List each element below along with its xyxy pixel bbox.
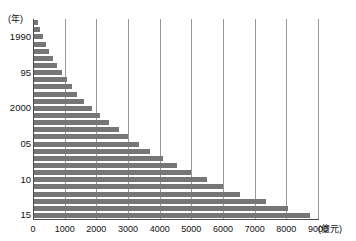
bar-row	[33, 184, 318, 189]
bar-row	[33, 92, 318, 97]
bar	[33, 92, 77, 97]
bar-row	[33, 156, 318, 161]
bar-row	[33, 70, 318, 75]
bar	[33, 184, 223, 189]
bar	[33, 213, 310, 218]
bar	[33, 99, 84, 104]
bar	[33, 149, 150, 154]
bar-row	[33, 113, 318, 118]
x-axis-unit-label: (億元)	[318, 224, 342, 235]
y-axis-tick-labels: 1990952000051015	[0, 0, 31, 241]
bar	[33, 120, 109, 125]
bar-row	[33, 49, 318, 54]
x-axis-tick-label: 6000	[213, 224, 233, 235]
x-axis-tick-label: 0	[30, 224, 35, 235]
bar	[33, 77, 67, 82]
x-axis-tick-label: 1000	[55, 224, 75, 235]
bar	[33, 56, 53, 61]
bar-row	[33, 106, 318, 111]
gridline	[318, 19, 319, 219]
bar-row	[33, 84, 318, 89]
bar-row	[33, 134, 318, 139]
bar	[33, 206, 288, 211]
bar	[33, 106, 92, 111]
y-axis-tick-label: 10	[20, 175, 31, 185]
bar	[33, 156, 163, 161]
x-axis-tick-label: 3000	[118, 224, 138, 235]
bar	[33, 142, 139, 147]
y-axis-line	[33, 19, 34, 220]
bar	[33, 70, 62, 75]
x-axis-tick-label: 2000	[86, 224, 106, 235]
y-axis-tick-label: 1990	[10, 32, 31, 42]
bar	[33, 199, 266, 204]
bar-row	[33, 63, 318, 68]
y-axis-tick-label: 05	[20, 139, 31, 149]
bar-chart: (年) 1990952000051015 0100020003000400050…	[0, 0, 356, 241]
chart-title-fragment	[6, 0, 206, 9]
bar-row	[33, 206, 318, 211]
bar-row	[33, 163, 318, 168]
bar	[33, 177, 207, 182]
y-axis-tick-label: 2000	[10, 103, 31, 113]
bar-row	[33, 27, 318, 32]
bar-row	[33, 199, 318, 204]
bar-row	[33, 149, 318, 154]
bar-row	[33, 192, 318, 197]
x-axis-tick-label: 8000	[276, 224, 296, 235]
bar-row	[33, 127, 318, 132]
bar-row	[33, 34, 318, 39]
bar-row	[33, 213, 318, 218]
bar	[33, 49, 49, 54]
bar-row	[33, 142, 318, 147]
bar	[33, 63, 57, 68]
bar	[33, 127, 119, 132]
plot-area	[33, 19, 318, 219]
bar-row	[33, 42, 318, 47]
bar	[33, 134, 128, 139]
x-axis-tick-label: 4000	[150, 224, 170, 235]
bar	[33, 163, 177, 168]
bar	[33, 113, 100, 118]
bar	[33, 84, 72, 89]
bar	[33, 42, 46, 47]
bar-row	[33, 56, 318, 61]
bar-row	[33, 99, 318, 104]
y-axis-tick-label: 95	[20, 68, 31, 78]
bar	[33, 192, 240, 197]
bar	[33, 170, 191, 175]
x-axis-tick-label: 7000	[245, 224, 265, 235]
x-axis-line	[33, 219, 319, 220]
bar-row	[33, 170, 318, 175]
bar	[33, 27, 40, 32]
x-axis-tick-label: 5000	[181, 224, 201, 235]
bar-row	[33, 120, 318, 125]
bar-row	[33, 177, 318, 182]
bar-row	[33, 20, 318, 25]
bar	[33, 34, 43, 39]
bar-row	[33, 77, 318, 82]
y-axis-tick-label: 15	[20, 210, 31, 220]
